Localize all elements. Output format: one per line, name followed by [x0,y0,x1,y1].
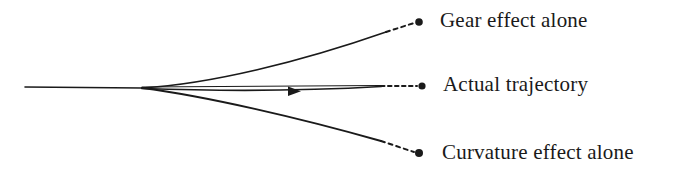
actual-trajectory-label: Actual trajectory [443,74,588,95]
curvature-effect-endpoint-dot [415,149,423,157]
actual-trajectory-upper-rail [142,86,381,88]
direction-arrowhead-icon [288,87,301,97]
curvature-effect-dashed-segment [381,141,414,152]
trajectory-diagram: Gear effect alone Actual trajectory Curv… [0,0,680,181]
gear-effect-dashed-segment [386,23,414,32]
curvature-effect-label: Curvature effect alone [442,142,634,163]
curvature-effect-curve [142,88,381,141]
gear-effect-curve [142,32,386,88]
gear-effect-endpoint-dot [415,18,423,26]
actual-trajectory-endpoint-dot [418,82,425,89]
gear-effect-label: Gear effect alone [440,10,588,31]
incoming-tail-path [25,87,142,88]
